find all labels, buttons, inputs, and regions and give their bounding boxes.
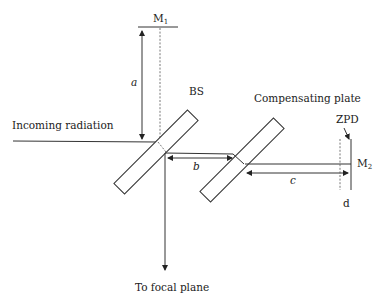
label-m1: M1 <box>153 12 168 26</box>
label-incoming-radiation: Incoming radiation <box>12 119 114 131</box>
label-to-focal-plane: To focal plane <box>135 281 209 293</box>
label-m2: M2 <box>357 157 372 171</box>
bs-to-cp-beam <box>165 153 233 154</box>
label-d: d <box>343 197 350 209</box>
label-b: b <box>193 160 200 172</box>
label-c: c <box>290 174 296 186</box>
label-a: a <box>131 76 137 88</box>
zpd-pointer-arrow <box>344 128 349 139</box>
interferometer-diagram: M1 a Incoming radiation BS Compensating … <box>0 0 383 297</box>
label-compensating-plate: Compensating plate <box>254 92 361 104</box>
compensating-plate <box>200 118 284 202</box>
beamsplitter-plate <box>114 110 198 194</box>
label-zpd: ZPD <box>336 113 359 125</box>
incoming-beam <box>13 141 157 142</box>
label-bs: BS <box>189 85 204 97</box>
